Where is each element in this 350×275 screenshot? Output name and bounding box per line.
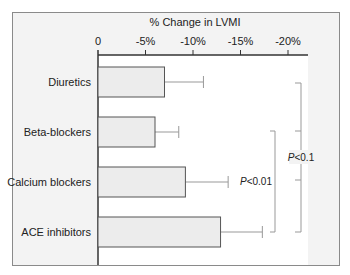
chart-title: % Change in LVMI	[150, 16, 241, 28]
bar	[98, 167, 185, 197]
category-label: Calcium blockers	[7, 176, 91, 188]
bar	[98, 217, 221, 247]
x-tick-label: -15%	[228, 35, 254, 47]
bar-group: Calcium blockers	[7, 167, 228, 197]
significance-brackets: P<0.01P<0.1	[240, 83, 315, 232]
bars: DiureticsBeta-blockersCalcium blockersAC…	[7, 67, 262, 247]
x-tick-label: -5%	[136, 35, 156, 47]
category-label: ACE inhibitors	[21, 226, 91, 238]
bar	[98, 67, 165, 97]
x-tick-label: -10%	[180, 35, 206, 47]
x-tick-label: 0	[95, 35, 101, 47]
category-label: Beta-blockers	[24, 126, 92, 138]
bar	[98, 117, 155, 147]
x-tick-label: -20%	[275, 35, 301, 47]
bar-group: Diuretics	[48, 67, 203, 97]
p-value-label: P<0.1	[288, 152, 315, 163]
bar-group: ACE inhibitors	[21, 217, 262, 247]
p-value-label: P<0.01	[240, 176, 272, 187]
bar-chart: % Change in LVMI 0-5%-10%-15%-20% Diuret…	[0, 0, 350, 275]
bar-group: Beta-blockers	[24, 117, 179, 147]
category-label: Diuretics	[48, 76, 91, 88]
